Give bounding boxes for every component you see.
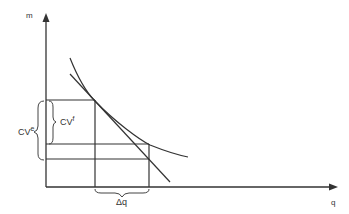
cv-e-superscript: e	[31, 125, 35, 132]
cv-e-text: CV	[18, 127, 31, 137]
delta-q-brace-icon	[95, 189, 149, 197]
cv-f-superscript: f	[73, 115, 75, 122]
x-axis-arrow-icon	[329, 184, 338, 191]
cv-f-label: CVf	[60, 115, 75, 127]
cv-f-text: CV	[60, 117, 73, 127]
cv-f-brace-icon	[49, 101, 56, 144]
y-axis-label: m	[26, 11, 33, 20]
cv-e-label: CVe	[18, 125, 35, 137]
tangent-line	[70, 74, 170, 182]
x-axis-label: q	[331, 198, 335, 207]
diagram-canvas: m q CVe CVf Δq	[0, 0, 349, 214]
delta-q-label: Δq	[116, 197, 127, 207]
indifference-curve	[70, 58, 188, 157]
y-axis-arrow-icon	[43, 13, 50, 22]
cv-e-brace-icon	[34, 101, 44, 160]
